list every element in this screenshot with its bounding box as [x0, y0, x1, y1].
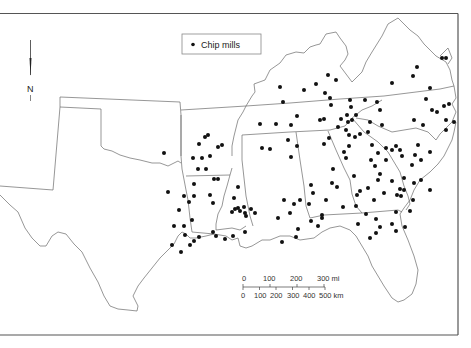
- chip-mill-dot: [204, 167, 208, 171]
- chip-mill-dot: [253, 211, 257, 215]
- chip-mill-dot: [302, 88, 306, 92]
- chip-mill-dot: [358, 132, 362, 136]
- chip-mill-dot: [334, 78, 338, 82]
- chip-mill-dot: [374, 217, 378, 221]
- chip-mill-dot: [394, 144, 398, 148]
- scale-km-500: 500 km: [319, 291, 344, 300]
- north-label: N: [27, 84, 34, 94]
- chip-mill-dot: [376, 178, 380, 182]
- chip-mill-dot: [206, 133, 210, 137]
- chip-mill-dot: [282, 198, 286, 202]
- chip-mill-dot: [242, 205, 246, 209]
- chip-mill-dot: [335, 185, 339, 189]
- chip-mill-dot: [170, 243, 174, 247]
- chip-mill-dot: [322, 142, 326, 146]
- scale-km-0: 0: [241, 291, 245, 300]
- chip-mill-dot: [339, 117, 343, 121]
- chip-mill-dot: [378, 172, 382, 176]
- chip-mill-dot: [274, 122, 278, 126]
- atlantic-coast: [404, 48, 456, 208]
- chip-mill-dot: [288, 211, 292, 215]
- chip-mill-dot: [211, 230, 215, 234]
- chip-mill-dot: [294, 235, 298, 239]
- chip-mill-dot: [378, 108, 382, 112]
- chip-mill-dot: [394, 210, 398, 214]
- chip-mill-dot: [435, 110, 439, 114]
- chip-mill-dot: [384, 158, 388, 162]
- chip-mill-dot: [220, 143, 224, 147]
- chip-mill-dot: [428, 188, 432, 192]
- chip-mill-dot: [444, 56, 448, 60]
- chip-mill-dot: [394, 229, 398, 233]
- scale-mi-300: 300 mi: [317, 274, 340, 283]
- chip-mill-dot: [373, 164, 377, 168]
- boundary-arkansas: [181, 106, 246, 232]
- chip-mill-dot: [188, 243, 192, 247]
- chip-mill-dot: [444, 128, 448, 132]
- chip-mill-dot: [292, 202, 296, 206]
- chip-mill-dot: [316, 224, 320, 228]
- chip-mill-dot: [318, 118, 322, 122]
- chip-mill-dot: [249, 207, 253, 211]
- chip-mill-dot: [230, 210, 234, 214]
- chip-mill-dot: [268, 147, 272, 151]
- chip-mill-dot: [402, 188, 406, 192]
- chip-mill-dot: [350, 118, 354, 122]
- chip-mill-dot: [428, 150, 432, 154]
- chip-mill-dot: [327, 136, 331, 140]
- chip-mill-dot: [413, 153, 417, 157]
- chip-mill-dot: [296, 227, 300, 231]
- chip-mill-dot: [346, 120, 350, 124]
- chip-mill-dot: [238, 209, 242, 213]
- scale-mi-100: 100: [263, 274, 276, 283]
- chip-mill-dot: [231, 234, 235, 238]
- map-frame: [0, 14, 458, 336]
- chip-mill-dot: [223, 237, 227, 241]
- chip-mill-dot: [166, 190, 170, 194]
- north-arrow-head-icon: [30, 58, 32, 76]
- chip-mill-dot: [295, 114, 299, 118]
- chip-mill-dot: [196, 167, 200, 171]
- chip-mill-dot: [376, 151, 380, 155]
- chip-mill-dot: [410, 163, 414, 167]
- chip-mill-dot: [197, 142, 201, 146]
- chip-mill-dot: [208, 193, 212, 197]
- chip-mill-dot: [428, 86, 432, 90]
- chip-mill-dot: [216, 177, 220, 181]
- chip-mill-dot: [280, 240, 284, 244]
- chip-mill-dot: [390, 148, 394, 152]
- chip-mill-dot: [349, 105, 353, 109]
- scale-km-100: 100: [254, 291, 267, 300]
- legend-dot-icon: [191, 43, 195, 47]
- chip-mill-dot: [289, 155, 293, 159]
- chip-mill-dot: [330, 181, 334, 185]
- chip-mill-dot: [355, 193, 359, 197]
- chip-mill-dot: [286, 138, 290, 142]
- scale-km-300: 300: [287, 291, 300, 300]
- chip-mill-dot: [192, 194, 196, 198]
- chip-mill-dot: [347, 144, 351, 148]
- chip-mill-dot: [398, 148, 402, 152]
- chip-mill-dot: [331, 167, 335, 171]
- chip-mill-dot: [211, 201, 215, 205]
- chip-mill-dot: [192, 182, 196, 186]
- chip-mill-dot: [314, 82, 318, 86]
- scale-mi-200: 200: [290, 274, 303, 283]
- chip-mill-dot: [444, 118, 448, 122]
- chip-mill-dot: [415, 65, 419, 69]
- chip-mill-dot: [307, 202, 311, 206]
- chip-mill-dot: [216, 145, 220, 149]
- chip-mill-dot: [244, 214, 248, 218]
- chip-mill-dot: [366, 186, 370, 190]
- chip-mill-dot: [440, 56, 444, 60]
- chip-mill-dot: [329, 103, 333, 107]
- chip-mill-dot: [384, 146, 388, 150]
- chip-mill-dot: [311, 191, 315, 195]
- chip-mill-dot: [320, 213, 324, 217]
- chip-mill-dot: [177, 208, 181, 212]
- chip-mill-dot: [370, 143, 374, 147]
- chip-mill-dot: [382, 191, 386, 195]
- chip-mill-dot: [369, 158, 373, 162]
- chip-mill-dot: [295, 144, 299, 148]
- chip-mill-dot: [233, 207, 237, 211]
